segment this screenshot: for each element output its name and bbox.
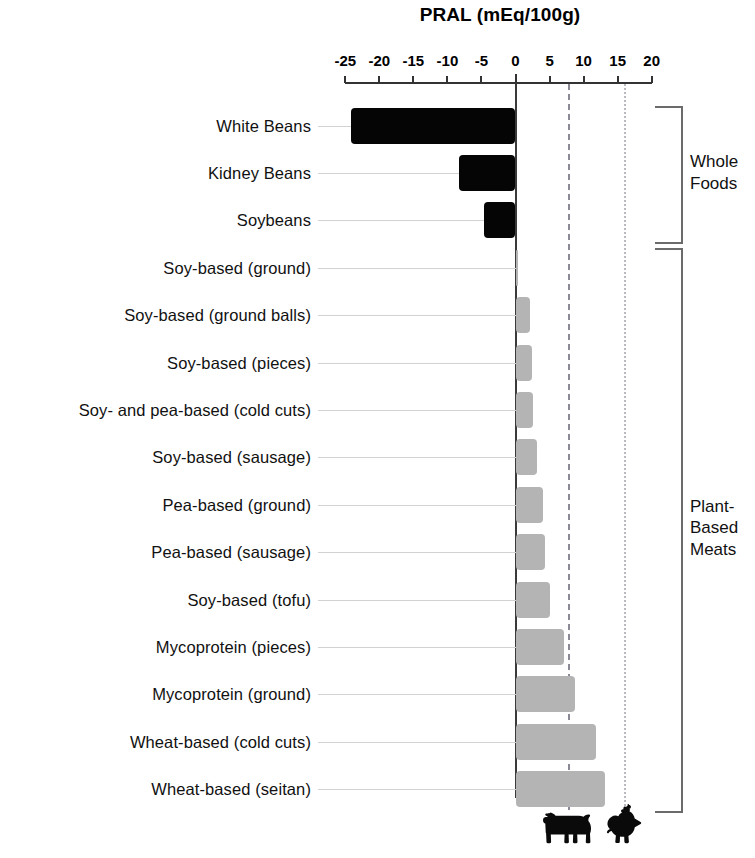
leader-line bbox=[318, 315, 516, 316]
leader-line bbox=[318, 457, 516, 458]
group-label-line: Whole bbox=[690, 151, 738, 173]
chart-row: Pea-based (sausage) bbox=[0, 529, 755, 576]
category-label-7: Soy-based (sausage) bbox=[152, 448, 311, 467]
x-tick-label-10: 10 bbox=[575, 52, 592, 69]
chart-row: Soy-based (ground) bbox=[0, 244, 755, 291]
x-tick-label-neg20: -20 bbox=[368, 52, 390, 69]
x-axis-tick-labels: -25-20-15-10-505101520 bbox=[0, 52, 755, 74]
x-axis-spine bbox=[345, 82, 651, 84]
bar-9 bbox=[516, 534, 545, 570]
chart-row: Soy-based (sausage) bbox=[0, 434, 755, 481]
group-label-line: Foods bbox=[690, 173, 738, 195]
bar-2 bbox=[484, 202, 515, 238]
x-tick-label-neg25: -25 bbox=[334, 52, 356, 69]
chart-row: Soybeans bbox=[0, 197, 755, 244]
category-label-10: Soy-based (tofu) bbox=[187, 590, 311, 609]
leader-line bbox=[318, 694, 516, 695]
category-label-8: Pea-based (ground) bbox=[162, 495, 311, 514]
group-label-1: Plant-BasedMeats bbox=[690, 496, 738, 561]
leader-line bbox=[318, 363, 516, 364]
group-label-line: Plant- bbox=[690, 496, 738, 518]
x-tick-label-neg10: -10 bbox=[437, 52, 459, 69]
bar-12 bbox=[516, 676, 576, 712]
chart-row: Soy-based (pieces) bbox=[0, 339, 755, 386]
cow-icon bbox=[543, 808, 595, 846]
group-label-line: Based bbox=[690, 517, 738, 539]
leader-line bbox=[318, 173, 459, 174]
chart-row: Mycoprotein (pieces) bbox=[0, 623, 755, 670]
category-label-13: Wheat-based (cold cuts) bbox=[130, 732, 311, 751]
category-label-3: Soy-based (ground) bbox=[163, 258, 311, 277]
chart-row: Kidney Beans bbox=[0, 149, 755, 196]
leader-line bbox=[318, 505, 516, 506]
x-tick-label-15: 15 bbox=[609, 52, 626, 69]
bar-14 bbox=[516, 771, 606, 807]
group-bracket-1 bbox=[655, 248, 683, 813]
leader-line bbox=[318, 789, 516, 790]
chart-row: Wheat-based (cold cuts) bbox=[0, 718, 755, 765]
plot-area: White BeansKidney BeansSoybeansSoy-based… bbox=[0, 84, 755, 796]
chart-row: Soy-based (ground balls) bbox=[0, 292, 755, 339]
bar-8 bbox=[516, 487, 543, 523]
leader-line bbox=[318, 268, 516, 269]
group-label-line: Meats bbox=[690, 539, 738, 561]
bar-4 bbox=[516, 297, 531, 333]
x-tick-label-neg5: -5 bbox=[475, 52, 488, 69]
chart-row: White Beans bbox=[0, 102, 755, 149]
bar-13 bbox=[516, 724, 596, 760]
chart-title: PRAL (mEq/100g) bbox=[345, 4, 655, 26]
leader-line bbox=[318, 552, 516, 553]
bar-3 bbox=[516, 250, 518, 286]
chart-row: Soy- and pea-based (cold cuts) bbox=[0, 386, 755, 433]
category-label-2: Soybeans bbox=[237, 211, 311, 230]
leader-line bbox=[318, 742, 516, 743]
group-label-0: WholeFoods bbox=[690, 151, 738, 195]
bar-0 bbox=[351, 108, 516, 144]
bar-10 bbox=[516, 582, 550, 618]
group-bracket-0 bbox=[655, 106, 683, 244]
chart-row: Pea-based (ground) bbox=[0, 481, 755, 528]
leader-line bbox=[318, 600, 516, 601]
leader-line bbox=[318, 126, 351, 127]
x-tick-label-20: 20 bbox=[643, 52, 660, 69]
chart-row: Mycoprotein (ground) bbox=[0, 671, 755, 718]
bar-1 bbox=[459, 155, 516, 191]
category-label-6: Soy- and pea-based (cold cuts) bbox=[79, 401, 311, 420]
bar-7 bbox=[516, 439, 537, 475]
category-label-0: White Beans bbox=[216, 116, 311, 135]
category-label-1: Kidney Beans bbox=[208, 164, 311, 183]
leader-line bbox=[318, 410, 516, 411]
x-tick-label-0: 0 bbox=[511, 52, 519, 69]
leader-line bbox=[318, 220, 484, 221]
category-label-4: Soy-based (ground balls) bbox=[124, 306, 311, 325]
chicken-icon bbox=[603, 804, 647, 848]
bar-11 bbox=[516, 629, 564, 665]
bar-5 bbox=[516, 345, 532, 381]
bar-6 bbox=[516, 392, 534, 428]
x-tick-label-neg15: -15 bbox=[403, 52, 425, 69]
category-label-12: Mycoprotein (ground) bbox=[152, 685, 311, 704]
category-label-5: Soy-based (pieces) bbox=[167, 353, 311, 372]
category-label-9: Pea-based (sausage) bbox=[151, 543, 311, 562]
category-label-14: Wheat-based (seitan) bbox=[151, 780, 311, 799]
leader-line bbox=[318, 647, 516, 648]
category-label-11: Mycoprotein (pieces) bbox=[156, 638, 311, 657]
pral-bar-chart: PRAL (mEq/100g) -25-20-15-10-505101520 W… bbox=[0, 0, 755, 858]
chart-row: Soy-based (tofu) bbox=[0, 576, 755, 623]
x-tick-label-5: 5 bbox=[545, 52, 553, 69]
